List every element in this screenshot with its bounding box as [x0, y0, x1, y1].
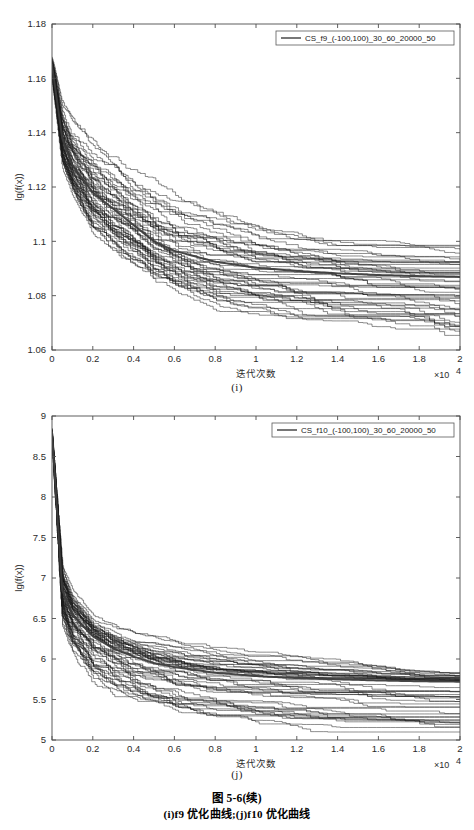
figure-caption: 图 5-6(续) (i)f9 优化曲线;(j)f10 优化曲线: [0, 790, 474, 822]
x-tick-label: 1.4: [331, 353, 344, 364]
figure-page: 00.20.40.60.811.21.41.61.821.061.081.11.…: [0, 0, 474, 830]
convergence-curve-run: [52, 64, 460, 282]
chart-figure-j: 00.20.40.60.811.21.41.61.8255.566.577.58…: [0, 392, 474, 792]
x-exponent-base: ×10: [434, 370, 449, 380]
convergence-curve-run: [52, 73, 460, 310]
convergence-curve-run: [52, 432, 460, 682]
convergence-curve-run: [52, 432, 460, 692]
x-tick-label: 0.8: [209, 743, 222, 754]
x-tick-label: 0: [49, 353, 54, 364]
convergence-curve-run: [52, 73, 460, 313]
convergence-curve-run: [52, 64, 460, 273]
convergence-curve-run: [52, 69, 460, 297]
chart-legend: CS_f9_(-100,100)_30_60_20000_50: [276, 31, 454, 45]
y-tick-label: 1.14: [28, 127, 47, 138]
y-tick-label: 1.12: [28, 181, 47, 192]
convergence-curve-run: [52, 69, 460, 301]
x-axis-title: 迭代次数: [236, 368, 276, 379]
y-tick-label: 5: [41, 734, 46, 745]
convergence-curve-run: [52, 67, 460, 288]
x-tick-label: 0.8: [209, 353, 222, 364]
x-exponent-power: 4: [456, 366, 461, 376]
x-axis-exponent: ×104: [434, 366, 461, 380]
y-tick-label: 9: [41, 410, 46, 421]
chart-j-canvas: 00.20.40.60.811.21.41.61.8255.566.577.58…: [0, 392, 474, 792]
convergence-curve-run: [52, 436, 460, 707]
convergence-curve-run: [52, 63, 460, 275]
convergence-curve-run: [52, 78, 460, 336]
convergence-curves: [52, 57, 460, 335]
y-tick-label: 6.5: [33, 613, 46, 624]
convergence-curve-run: [52, 431, 460, 680]
x-tick-label: 0.2: [86, 353, 99, 364]
x-tick-label: 1.2: [290, 353, 303, 364]
mean-convergence-curve: [52, 432, 460, 681]
convergence-curve-run: [52, 59, 460, 250]
x-tick-label: 1.6: [372, 353, 385, 364]
plot-frame: [52, 24, 460, 350]
chart-i-canvas: 00.20.40.60.811.21.41.61.821.061.081.11.…: [0, 0, 474, 400]
y-tick-label: 1.08: [28, 290, 47, 301]
x-axis-ticks: 00.20.40.60.811.21.41.61.82: [49, 416, 462, 754]
convergence-curves: [52, 428, 460, 732]
convergence-curve-run: [52, 436, 460, 707]
convergence-curve-run: [52, 434, 460, 697]
convergence-curve-run: [52, 67, 460, 288]
x-tick-label: 1.4: [331, 743, 344, 754]
legend-label: CS_f9_(-100,100)_30_60_20000_50: [305, 34, 436, 43]
convergence-curve-run: [52, 63, 460, 268]
y-tick-label: 6: [41, 653, 46, 664]
convergence-curve-run: [52, 72, 460, 314]
x-tick-label: 0.2: [86, 743, 99, 754]
caption-title: 图 5-6(续): [0, 790, 474, 806]
y-tick-label: 5.5: [33, 694, 46, 705]
convergence-curve-run: [52, 432, 460, 680]
x-tick-label: 0.6: [168, 743, 181, 754]
y-tick-label: 7.5: [33, 532, 46, 543]
chart-legend: CS_f10_(-100,100)_30_60_20000_50: [272, 423, 454, 437]
convergence-curve-run: [52, 430, 460, 677]
caption-subtitle: (i)f9 优化曲线;(j)f10 优化曲线: [0, 806, 474, 822]
convergence-curve-run: [52, 74, 460, 314]
y-axis-title: lg(f(x)): [13, 173, 24, 200]
convergence-curve-run: [52, 434, 460, 697]
y-tick-label: 1.1: [33, 236, 46, 247]
convergence-curve-run: [52, 433, 460, 692]
convergence-curve-run: [52, 73, 460, 320]
y-tick-label: 7: [41, 572, 46, 583]
convergence-curve-run: [52, 430, 460, 677]
convergence-curve-run: [52, 62, 460, 270]
y-axis-ticks: 55.566.577.588.59: [33, 410, 460, 745]
x-axis-ticks: 00.20.40.60.811.21.41.61.82: [49, 24, 462, 364]
x-tick-label: 0: [49, 743, 54, 754]
chart-figure-i: 00.20.40.60.811.21.41.61.821.061.081.11.…: [0, 0, 474, 400]
x-tick-label: 1: [253, 353, 258, 364]
convergence-curve-run: [52, 66, 460, 287]
y-tick-label: 8: [41, 491, 46, 502]
x-exponent-power: 4: [456, 756, 461, 766]
convergence-curve-run: [52, 59, 460, 257]
convergence-curve-run: [52, 433, 460, 696]
x-tick-label: 1.8: [413, 353, 426, 364]
convergence-curve-run: [52, 65, 460, 281]
convergence-curve-run: [52, 61, 460, 262]
convergence-curve-run: [52, 70, 460, 297]
convergence-curve-run: [52, 59, 460, 247]
y-axis-title: lg(f(x)): [13, 564, 24, 591]
convergence-curve-run: [52, 75, 460, 325]
y-tick-label: 8.5: [33, 451, 46, 462]
convergence-curve-run: [52, 59, 460, 254]
axes: [52, 24, 460, 350]
x-tick-label: 0.6: [168, 353, 181, 364]
convergence-curve-run: [52, 431, 460, 680]
x-tick-label: 1.2: [290, 743, 303, 754]
convergence-curve-run: [52, 78, 460, 332]
convergence-curve-run: [52, 432, 460, 680]
x-tick-label: 0.4: [127, 353, 140, 364]
y-tick-label: 1.06: [28, 344, 47, 355]
y-tick-label: 1.16: [28, 73, 47, 84]
x-tick-label: 2: [457, 743, 462, 754]
convergence-curve-run: [52, 434, 460, 698]
convergence-curve-run: [52, 436, 460, 702]
convergence-curve-run: [52, 439, 460, 728]
